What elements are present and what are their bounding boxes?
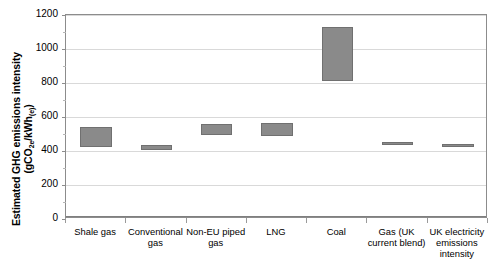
y-axis-tick-label: 600	[41, 111, 58, 121]
y-axis-tick-label: 0	[52, 213, 58, 223]
chart-figure: Estimated GHG emissions intensity (gCO2e…	[0, 0, 500, 268]
y-axis-tick-label: 200	[41, 179, 58, 189]
plot-area	[65, 14, 487, 218]
y-axis-tick-mark	[62, 117, 66, 118]
y-axis-minor-tick-mark	[63, 32, 66, 33]
y-axis-tick-label: 1000	[36, 43, 58, 53]
bar-non-eu-piped-gas	[201, 124, 232, 135]
y-axis-minor-tick-mark	[63, 66, 66, 67]
category-separator	[65, 218, 66, 223]
category-separator	[487, 218, 488, 223]
x-axis-label-conventional-gas: Conventional gas	[125, 226, 185, 248]
category-separator	[186, 218, 187, 223]
category-separator	[125, 218, 126, 223]
bar-conventional-gas	[141, 145, 172, 150]
y-axis-minor-tick-mark	[63, 134, 66, 135]
y-axis-minor-tick-mark	[63, 168, 66, 169]
y-axis-tick-label: 800	[41, 77, 58, 87]
gridline	[66, 185, 486, 186]
y-axis-title-line1: Estimated GHG emissions intensity	[10, 52, 23, 226]
y-axis-minor-tick-mark	[63, 202, 66, 203]
y-axis-tick-labels: 020040060080010001200	[28, 0, 62, 232]
category-separator	[306, 218, 307, 223]
gridline	[66, 117, 486, 118]
y-axis-tick-mark	[62, 49, 66, 50]
y-axis-tick-mark	[62, 83, 66, 84]
x-axis-label-gas-uk-current-blend: Gas (UK current blend)	[366, 226, 426, 248]
bar-coal	[322, 27, 353, 81]
bar-lng	[261, 123, 292, 136]
bar-shale-gas	[80, 127, 111, 147]
x-axis-label-uk-electricity-emissions-intensity: UK electricity emissions intensity	[427, 226, 487, 259]
y-axis-tick-label: 1200	[36, 9, 58, 19]
category-separator	[366, 218, 367, 223]
gridline	[66, 83, 486, 84]
gridline	[66, 151, 486, 152]
x-axis-label-non-eu-piped-gas: Non-EU piped gas	[186, 226, 246, 248]
y-axis-tick-mark	[62, 15, 66, 16]
y-axis-tick-mark	[62, 185, 66, 186]
gridline	[66, 15, 486, 16]
category-separator	[246, 218, 247, 223]
category-separator	[427, 218, 428, 223]
x-axis-label-coal: Coal	[306, 226, 366, 237]
x-axis-label-shale-gas: Shale gas	[65, 226, 125, 237]
y-axis-tick-mark	[62, 151, 66, 152]
x-axis-line	[66, 216, 486, 217]
gridline	[66, 49, 486, 50]
y-axis-minor-tick-mark	[63, 100, 66, 101]
y-axis-tick-label: 400	[41, 145, 58, 155]
bar-uk-electricity-emissions-intensity	[442, 144, 473, 147]
x-axis-label-lng: LNG	[246, 226, 306, 237]
bar-gas-uk-current-blend	[382, 142, 413, 145]
